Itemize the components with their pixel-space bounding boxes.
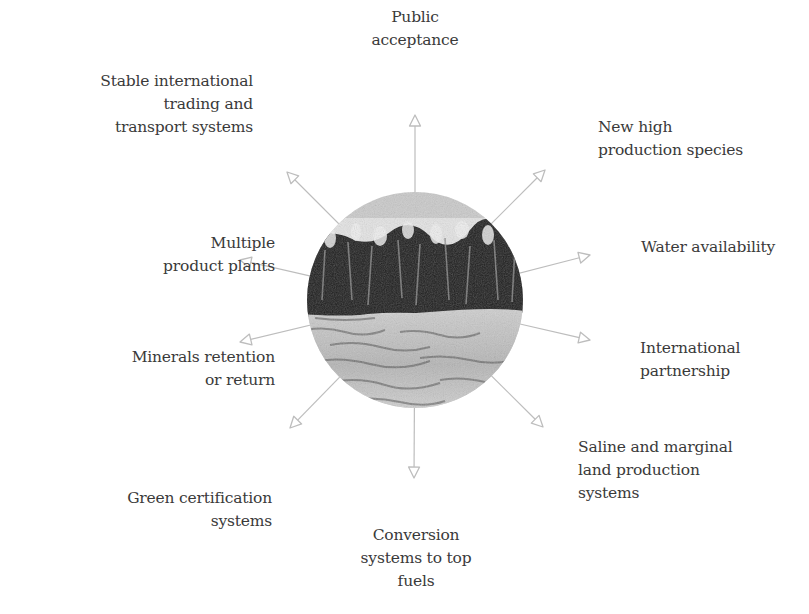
label-green-certification: Green certification systems [70,487,272,533]
label-stable-international-trading: Stable international trading and transpo… [40,70,253,139]
arrowhead-icon [409,467,420,478]
label-water-availability: Water availability [641,236,809,259]
label-saline-marginal-land: Saline and marginal land production syst… [578,436,778,505]
label-public-acceptance: Public acceptance [355,6,475,52]
label-conversion-systems: Conversion systems to top fuels [346,524,486,593]
arrowhead-icon [240,334,252,345]
center-photo [300,190,530,420]
arrowhead-icon [578,332,590,343]
arrowhead-icon [410,115,421,126]
label-international-partnership: International partnership [640,337,800,383]
label-new-high-production-species: New high production species [598,116,798,162]
label-multiple-product-plants: Multiple product plants [40,232,275,278]
label-minerals-retention: Minerals retention or return [10,346,275,392]
radial-diagram: Public acceptance New high production sp… [0,0,809,614]
arrowhead-icon [578,252,590,263]
